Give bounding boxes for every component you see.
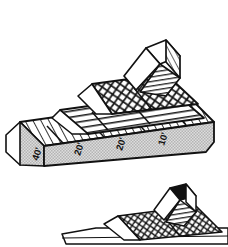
figure-canvas: 40' 20' 20' 10' <box>0 0 228 247</box>
stepped-beam-diagram: 40' 20' 20' 10' <box>0 0 228 247</box>
